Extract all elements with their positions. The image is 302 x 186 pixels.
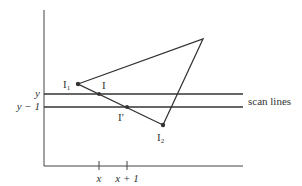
scan-line-y-label: y bbox=[34, 87, 40, 99]
intersection-i-label: I bbox=[102, 79, 106, 91]
scan-lines-label: scan lines bbox=[248, 95, 291, 107]
vertex-i1-label: I1 bbox=[63, 78, 71, 92]
tick-x-label: x bbox=[96, 172, 102, 184]
intersection-i-dot bbox=[97, 92, 101, 96]
vertex-i2-dot bbox=[161, 123, 165, 127]
scanline-diagram: I1 I2 I I′ y y − 1 scan lines x x + 1 bbox=[0, 0, 302, 186]
tick-x-plus-1-label: x + 1 bbox=[114, 172, 138, 184]
vertex-i1-dot bbox=[76, 82, 80, 86]
intersection-iprime-label: I′ bbox=[118, 111, 124, 123]
scan-line-y-minus-1-label: y − 1 bbox=[16, 100, 40, 112]
triangle bbox=[78, 39, 203, 125]
vertex-i2-label: I2 bbox=[157, 131, 165, 145]
intersection-iprime-dot bbox=[125, 105, 129, 109]
